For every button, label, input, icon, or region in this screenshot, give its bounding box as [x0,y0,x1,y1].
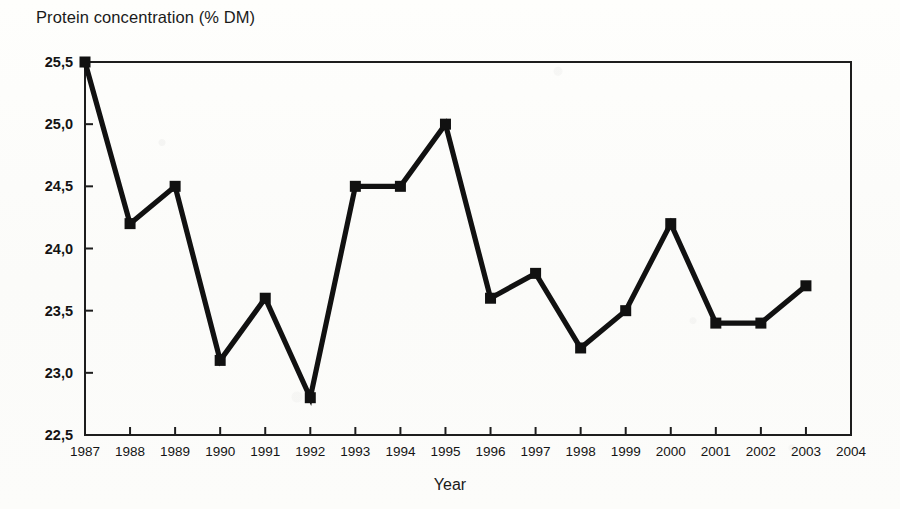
y-tick-label-group: 22,523,023,524,024,525,025,5 [45,54,73,443]
svg-text:25,0: 25,0 [45,116,73,132]
data-point-marker [530,268,541,279]
svg-text:2002: 2002 [746,444,776,459]
svg-text:23,5: 23,5 [45,303,73,319]
svg-text:1998: 1998 [566,444,596,459]
data-point-marker [260,293,271,304]
svg-text:2000: 2000 [656,444,686,459]
svg-text:1987: 1987 [70,444,100,459]
data-point-marker [170,181,181,192]
data-point-marker [485,293,496,304]
data-point-marker [125,218,136,229]
svg-text:22,5: 22,5 [45,427,73,443]
svg-text:1990: 1990 [205,444,235,459]
svg-text:1995: 1995 [430,444,460,459]
data-series-line [85,62,806,398]
data-point-marker [395,181,406,192]
chart-plot-area: 22,523,023,524,024,525,025,5 19871988198… [0,0,900,509]
data-point-marker [350,181,361,192]
data-point-marker [665,218,676,229]
data-point-marker [710,318,721,329]
svg-text:1993: 1993 [340,444,370,459]
chart-figure: Protein concentration (% DM) 22,523,023,… [0,0,900,509]
svg-text:25,5: 25,5 [45,54,73,70]
data-point-marker [755,318,766,329]
svg-text:1991: 1991 [250,444,280,459]
svg-text:1988: 1988 [115,444,145,459]
svg-text:2004: 2004 [836,444,867,459]
svg-text:2001: 2001 [701,444,731,459]
svg-text:2003: 2003 [791,444,821,459]
data-point-marker [80,57,91,68]
data-marker-group [80,57,812,404]
svg-text:1997: 1997 [521,444,551,459]
data-point-marker [800,280,811,291]
svg-text:1996: 1996 [476,444,506,459]
svg-text:24,0: 24,0 [45,241,73,257]
svg-text:1994: 1994 [385,444,416,459]
data-point-marker [305,392,316,403]
data-point-marker [215,355,226,366]
data-point-marker [620,305,631,316]
data-point-marker [575,342,586,353]
svg-text:1992: 1992 [295,444,325,459]
x-axis-title: Year [0,476,900,494]
data-point-marker [440,119,451,130]
svg-text:1999: 1999 [611,444,641,459]
svg-text:1989: 1989 [160,444,190,459]
x-tick-label-group: 1987198819891990199119921993199419951996… [70,444,867,459]
x-tick-mark-group [130,427,806,435]
y-tick-mark-group [85,124,93,373]
axis-frame [85,62,851,435]
svg-text:23,0: 23,0 [45,365,73,381]
svg-text:24,5: 24,5 [45,178,73,194]
